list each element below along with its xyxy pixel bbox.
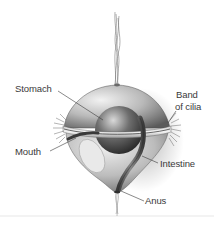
label-anus: Anus [145, 195, 166, 206]
label-intestine: Intestine [160, 158, 195, 169]
anus [114, 191, 120, 194]
apical-tuft [115, 12, 120, 84]
diagram-canvas: Stomach Band of cilia Mouth Intestine An… [0, 0, 214, 229]
stomach [95, 106, 143, 154]
posterior-tuft [116, 193, 119, 216]
ground-line [0, 215, 214, 217]
label-stomach: Stomach [15, 83, 52, 94]
label-band-of-cilia-line1: Band [176, 89, 198, 100]
apical-organ [114, 84, 120, 87]
larva-illustration [0, 0, 214, 229]
label-band-of-cilia-line2: of cilia [175, 101, 201, 112]
label-mouth: Mouth [15, 146, 41, 157]
leader-anus [121, 191, 144, 201]
